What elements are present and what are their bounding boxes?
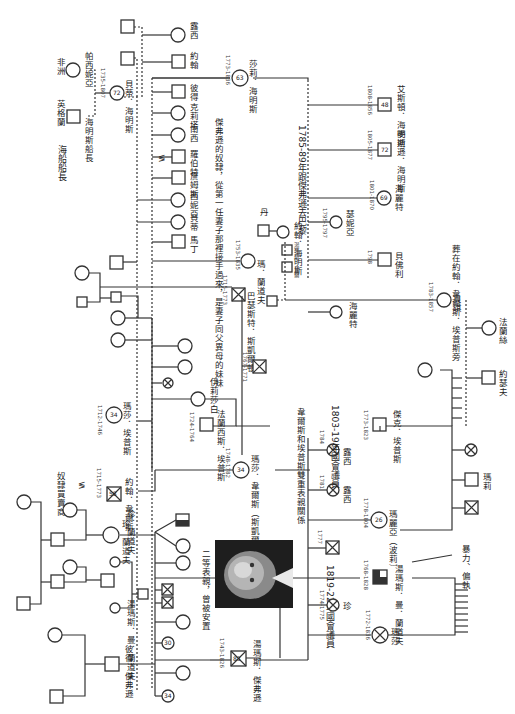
sister-age: 34 xyxy=(164,692,172,699)
peter-jefferson-symbol xyxy=(105,657,119,671)
mary-jefferson-label: 瑪麗亞（波莉） xyxy=(387,510,397,573)
affected-fill xyxy=(373,570,380,577)
alcohol-symbol: ≶ xyxy=(78,480,86,490)
twin-lines xyxy=(155,520,176,546)
tmr-label: 湯瑪斯．曼．蘭道夫 xyxy=(393,564,403,646)
peter-label: 彼得 xyxy=(188,83,198,102)
john-wayles-age: 58 xyxy=(109,490,117,497)
mary-hemings-symbol xyxy=(241,254,255,268)
nance-label: 南西 xyxy=(188,124,198,143)
parthenia-symbol xyxy=(66,63,80,77)
betsy-years: 1783-1857 xyxy=(428,282,434,312)
jane-randolph-mother-symbol xyxy=(103,527,119,543)
randolph-child-1 xyxy=(110,557,120,567)
buried-note: 葬在約翰．韋爾斯．埃普斯旁 xyxy=(450,244,460,362)
tenia-label: 丹 xyxy=(258,208,268,217)
elizabeth-symbol xyxy=(191,392,205,406)
sally-years: 1773-1836 xyxy=(225,55,231,85)
unnamed-years: 1795-1797 xyxy=(322,208,328,238)
beverly-symbol xyxy=(378,253,391,266)
martin-label: 馬丁 xyxy=(188,236,198,254)
frances-symbol xyxy=(482,321,496,335)
violence-note: 暴力、偏執 xyxy=(460,545,470,590)
thenia-symbol xyxy=(171,193,185,207)
john-wayles-years: 1715-1773 xyxy=(96,468,102,498)
sally-age: 63 xyxy=(236,74,244,81)
francis-label: 瑪莉 xyxy=(481,473,491,491)
critta-symbol xyxy=(171,106,185,120)
betty-union-1 xyxy=(134,27,142,97)
mary-bell-symbol xyxy=(277,226,289,238)
jane-years: 1774-1775 xyxy=(319,590,325,620)
beverly-years: 1798 xyxy=(367,250,373,264)
eppes-children-marks xyxy=(452,378,462,418)
photo-caption: 二等表親，曾被安置 xyxy=(200,550,210,631)
betty-years: 1735-1807 xyxy=(100,68,106,98)
annotation-pointer xyxy=(412,555,452,562)
lucy1781-label: 露西 xyxy=(341,486,351,504)
son1777-years: 1777 xyxy=(317,530,323,544)
lucy1784-years: 1784 xyxy=(319,430,325,444)
wayles-sibling-4 xyxy=(111,292,121,302)
harriet1-symbol xyxy=(330,306,342,318)
frances-label: 法蘭絲 xyxy=(497,317,507,345)
john-hemings-label: 湯瑪斯．貝爾 xyxy=(294,241,300,278)
peter-jefferson-label: 彼得．傑弗遜 xyxy=(123,644,133,699)
francis-symbol xyxy=(465,473,478,486)
francis-epps-years: 1724-1764 xyxy=(189,412,195,442)
randolph-ancestor-1 xyxy=(17,495,31,509)
union-line xyxy=(30,502,41,604)
wayles-sibling-1 xyxy=(110,256,123,269)
randolph-children-marks xyxy=(455,584,468,632)
martin-symbol xyxy=(172,235,185,248)
jane-label: 珍 xyxy=(341,601,351,611)
captain-hemings-label: 海明斯船長 xyxy=(83,117,93,163)
betty-partner-2 xyxy=(121,52,134,65)
lucy-label: 露西 xyxy=(188,22,198,40)
lucy1784-label: 露西 xyxy=(341,448,351,466)
harriet2-years: 1801-1870 xyxy=(369,180,375,210)
randolph-symbol xyxy=(258,225,269,236)
tj-age: 83 xyxy=(233,655,241,662)
anna-twin-symbol xyxy=(176,539,190,553)
madison-label: 麥迪遜．海明斯 xyxy=(395,129,405,193)
alcohol-symbol: ≶ xyxy=(158,153,166,163)
joseph-label: 約瑟夫 xyxy=(497,369,507,397)
elizabeth-label: 伊莉莎白 xyxy=(208,377,218,414)
bett-label: 貝蒂 xyxy=(188,214,198,232)
mary-jefferson-years: 1778-1804 xyxy=(363,498,369,528)
beverly-label: 貝佛利 xyxy=(393,252,403,279)
john-hemings-symbol xyxy=(282,245,292,255)
double-cousin-note: 韋爾斯和埃普斯雙重表親關係 xyxy=(295,407,305,525)
martha-wayles-years: 1748-1782 xyxy=(225,448,231,478)
bathurst-years: 1715-1773 xyxy=(222,275,228,305)
randolph-grandparent-3 xyxy=(63,503,77,517)
son1767-years: 1767-1771 xyxy=(242,352,248,382)
eston-years: 1808-1856 xyxy=(367,85,373,115)
randolph-father-symbol xyxy=(101,574,114,587)
tj-years: 1743-1826 xyxy=(219,638,225,668)
bett-symbol xyxy=(171,215,185,229)
wayles-daughter-1 xyxy=(111,311,125,325)
jefferson-sister-2 xyxy=(176,615,190,629)
unnamed-label: 瑟妮亞 xyxy=(344,210,354,237)
paris-note: 1785-89年跟傑弗遜去巴黎 xyxy=(297,125,307,235)
wayles-daughter-4 xyxy=(178,360,192,374)
congress-note-1: 1803-19年國會議員 xyxy=(330,405,340,489)
madison-years: 1805-1877 xyxy=(367,130,373,160)
randolph-ancestor-2 xyxy=(17,597,30,610)
wayles-daughter-2 xyxy=(111,333,125,347)
martha-epps-years: 1712-1746 xyxy=(97,405,103,435)
portrait-photo xyxy=(215,540,293,608)
john-label: 約翰 xyxy=(188,51,198,70)
harriet1-label: 海麗特 xyxy=(347,301,357,329)
union-line xyxy=(87,273,100,302)
betty-age: 72 xyxy=(113,89,121,96)
affected-fill xyxy=(176,520,189,526)
jefferson-sister-1 xyxy=(176,556,190,570)
martha-epps-label: 瑪莎．埃普斯 xyxy=(121,402,131,456)
peter-jefferson-father xyxy=(50,690,63,703)
mary-jefferson-age: 26 xyxy=(375,516,383,523)
randolph-grandparent-2 xyxy=(51,575,64,588)
jefferson-sister-3 xyxy=(176,666,190,680)
